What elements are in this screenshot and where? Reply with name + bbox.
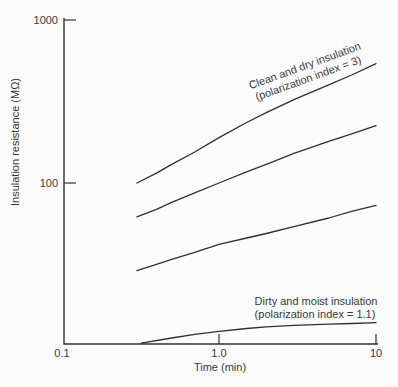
y-tick-label-1000: 1000 — [34, 14, 58, 26]
curve-intermediate-upper — [137, 126, 376, 217]
x-tick-label-0.1: 0.1 — [54, 347, 69, 359]
curve-dirty-moist-insulation — [141, 323, 376, 344]
x-tick-label-1.0: 1.0 — [211, 347, 226, 359]
annotation-dirty-moist-line2: (polarization index = 1.1) — [255, 308, 376, 320]
y-tick-label-100: 100 — [40, 177, 58, 189]
y-axis-title: Insulation resistance (MΩ) — [9, 78, 21, 206]
chart-figure: 1000 100 0.1 1.0 10 Time (min) Insulatio… — [0, 0, 398, 387]
x-axis-title: Time (min) — [194, 361, 246, 373]
annotation-dirty-moist-line1: Dirty and moist insulation — [255, 295, 378, 307]
insulation-resistance-chart: 1000 100 0.1 1.0 10 Time (min) Insulatio… — [0, 0, 398, 387]
x-tick-label-10: 10 — [370, 347, 382, 359]
curve-intermediate-lower — [137, 205, 376, 270]
annotation-dirty-moist: Dirty and moist insulation (polarization… — [255, 295, 378, 320]
